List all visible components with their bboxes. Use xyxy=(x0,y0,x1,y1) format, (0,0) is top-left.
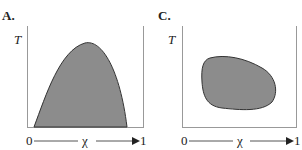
panel-a-dome-region xyxy=(34,43,127,127)
panel-c-x-start: 0 xyxy=(181,133,188,149)
panel-a-x-start: 0 xyxy=(26,133,33,149)
panel-a-x-symbol: χ xyxy=(82,133,88,149)
phase-diagrams xyxy=(0,0,302,150)
panel-c-blob-region xyxy=(202,56,276,109)
panel-c-x-symbol: χ xyxy=(237,133,243,149)
panel-c-x-end: 1 xyxy=(294,133,301,149)
panel-a-x-end: 1 xyxy=(140,133,147,149)
